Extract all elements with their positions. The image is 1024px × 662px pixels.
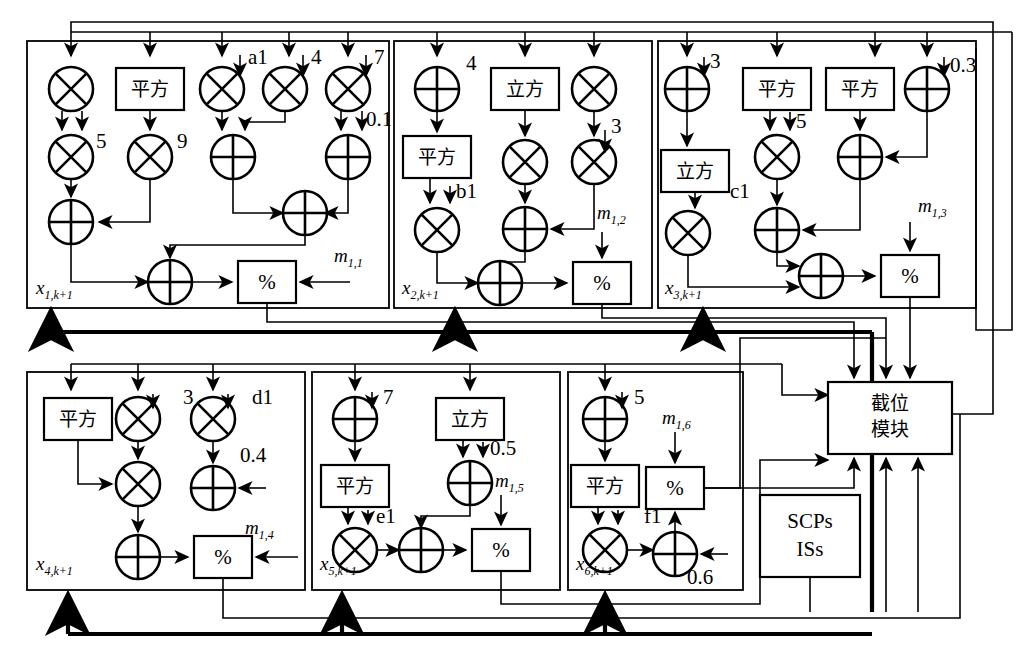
wire-x3-b3	[777, 252, 799, 266]
wire-x3-c2	[803, 179, 860, 230]
add-x3-b	[755, 208, 799, 252]
multiply-x1-e	[326, 67, 370, 111]
wire-x1-cd	[233, 179, 283, 213]
const-x1-a1: a1	[248, 45, 268, 69]
label-mod-x4: %	[214, 545, 232, 569]
multiply-x4-b	[116, 462, 160, 506]
const-x2-4: 4	[466, 51, 477, 75]
const-x4-d1: d1	[252, 385, 273, 409]
label-square-x3-1: 平方	[758, 78, 796, 100]
add-x6-a	[583, 397, 627, 441]
multiply-x2-a	[415, 208, 459, 252]
add-x1-right	[283, 191, 327, 235]
add-x1-cd	[211, 135, 255, 179]
add-x3-a	[665, 67, 709, 111]
const-x3-c1: c1	[730, 179, 750, 203]
const-x2-3: 3	[611, 114, 622, 138]
label-square-x4: 平方	[59, 408, 97, 430]
multiply-x3-b	[755, 135, 799, 179]
multiply-x1-d	[263, 67, 307, 111]
mod-param-x2: m1,2	[597, 202, 626, 227]
const-x1-01: 0.1	[366, 107, 392, 131]
mod-param-x3: m1,3	[918, 195, 947, 220]
const-x1-4: 4	[311, 45, 322, 69]
wire-x1-right-down	[170, 235, 305, 258]
label-cube-x5: 立方	[451, 408, 489, 430]
label-cube-x3: 立方	[676, 160, 714, 182]
wire-x1-left-down	[71, 244, 148, 282]
label-scps: SCPs	[787, 509, 833, 533]
label-cube-x2: 立方	[506, 78, 544, 100]
const-x3-5: 5	[796, 109, 807, 133]
label-square-x5: 平方	[336, 475, 374, 497]
add-x1-final	[148, 260, 192, 304]
label-mod-x5: %	[492, 538, 510, 562]
add-x3-d	[905, 67, 949, 111]
add-x5-a	[333, 397, 377, 441]
const-x3-3: 3	[710, 49, 721, 73]
add-x3-c	[838, 135, 882, 179]
wire-x3-right-feedback	[976, 32, 1012, 330]
const-x2-b1: b1	[456, 179, 477, 203]
state-label-x3: x3,k+1	[664, 277, 702, 302]
label-iss: ISs	[797, 537, 824, 561]
add-x5-final	[399, 528, 443, 572]
wire-x1-e2	[325, 179, 348, 213]
wire-x1-d	[245, 111, 285, 130]
label-truncation-line2: 模块	[871, 418, 909, 440]
add-x4-c	[191, 466, 235, 510]
wire-x3-a3	[688, 255, 799, 287]
mod-param-x5: m1,5	[495, 470, 524, 495]
label-truncation-line1: 截位	[871, 392, 909, 414]
mod-param-x1: m1,1	[334, 245, 363, 270]
const-x1-7: 7	[374, 45, 385, 69]
const-x6-06: 0.6	[687, 565, 713, 589]
add-x1-e	[326, 135, 370, 179]
const-x3-03: 0.3	[950, 53, 976, 77]
label-square-x3-2: 平方	[841, 78, 879, 100]
multiply-x1-c	[200, 67, 244, 111]
add-x1-left	[49, 200, 93, 244]
const-x5-e1: e1	[376, 504, 396, 528]
multiply-x2-c	[572, 67, 616, 111]
bfeed-to-trunc	[782, 364, 828, 395]
label-square-x1: 平方	[131, 78, 169, 100]
wire-x2-d2	[551, 184, 594, 229]
state-label-x4: x4,k+1	[35, 553, 73, 578]
multiply-x1-b	[128, 135, 172, 179]
wire-x4-sq-out	[78, 440, 112, 484]
label-mod-x3: %	[901, 264, 919, 288]
const-x4-04: 0.4	[240, 443, 267, 467]
multiply-x3-a	[666, 211, 710, 255]
add-x3-final	[799, 254, 843, 298]
wire-x5-b-down	[421, 505, 470, 528]
mod-param-x6: m1,6	[662, 407, 691, 432]
add-x4-final	[116, 535, 160, 579]
label-square-x6: 平方	[586, 475, 624, 497]
wire-trunc-in-b1	[704, 458, 854, 488]
const-x1-9: 9	[177, 129, 188, 153]
add-x2-a	[415, 67, 459, 111]
label-mod-x6: %	[666, 476, 684, 500]
multiply-x1-a2	[49, 135, 93, 179]
diagram-svg: 5 平方 9 a1 4 7 0.1	[0, 0, 1024, 662]
const-x5-05: 0.5	[490, 436, 516, 460]
state-label-x2: x2,k+1	[401, 277, 439, 302]
add-x5-b	[448, 461, 492, 505]
multiply-x2-b	[503, 140, 547, 184]
label-mod-x1: %	[258, 270, 276, 294]
state-label-x1: x1,k+1	[35, 277, 73, 302]
wire-x2-a3	[437, 252, 478, 283]
const-x1-5: 5	[96, 129, 107, 153]
wire-x3-d	[886, 111, 927, 157]
wire-x1-b2	[99, 179, 150, 222]
multiply-x1-a1	[49, 67, 93, 111]
add-x2-final	[478, 261, 522, 305]
add-x2-b	[503, 207, 547, 251]
box-scps-iss[interactable]	[760, 495, 860, 577]
const-x5-7: 7	[383, 385, 394, 409]
wire-x2-mod-out	[602, 304, 886, 378]
label-square-x2: 平方	[418, 146, 456, 168]
const-x6-5: 5	[634, 385, 645, 409]
label-mod-x2: %	[593, 271, 611, 295]
